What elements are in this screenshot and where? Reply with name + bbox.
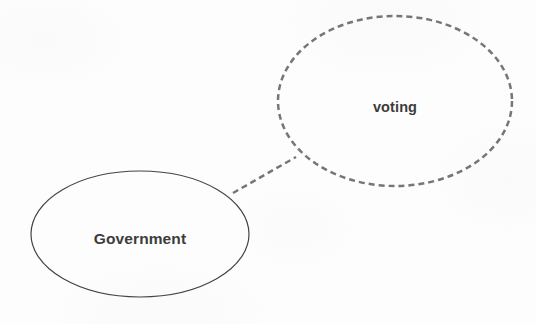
node-government-label: Government [94,230,186,248]
edge-government-voting[interactable] [233,157,296,193]
node-voting-label: voting [373,99,417,115]
diagram-canvas: Government voting [0,0,536,324]
concept-map-graph [0,0,536,324]
